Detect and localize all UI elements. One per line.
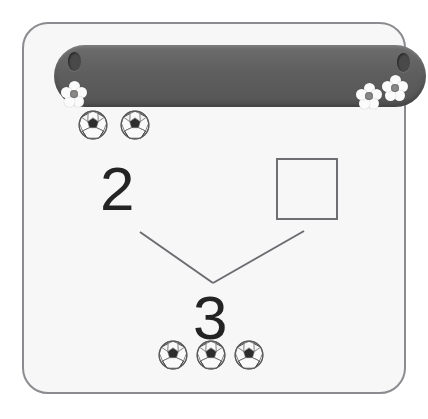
soccer-ball-icon — [120, 110, 150, 140]
soccer-ball-icon — [196, 340, 226, 370]
missing-addend-answer-box[interactable] — [276, 158, 338, 220]
banner-eyelet-left-icon — [68, 52, 81, 71]
flower-icon-left — [61, 81, 87, 107]
flower-icon-right-inner — [356, 83, 382, 109]
bottom-object-group — [158, 340, 264, 370]
decorative-header-banner — [54, 45, 426, 107]
known-addend-digit: 2 — [100, 158, 133, 220]
soccer-ball-icon — [158, 340, 188, 370]
banner-eyelet-right-icon — [397, 53, 410, 72]
top-object-group — [78, 110, 150, 140]
soccer-ball-icon — [78, 110, 108, 140]
flower-icon-right-outer — [382, 75, 408, 101]
soccer-ball-icon — [234, 340, 264, 370]
